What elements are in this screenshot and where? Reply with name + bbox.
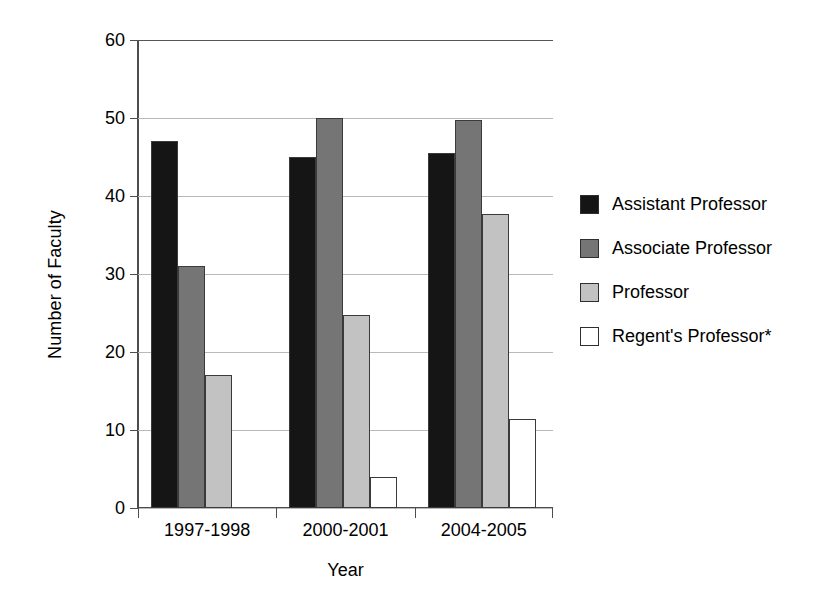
legend-swatch-icon: [580, 195, 599, 214]
chart-legend: Assistant ProfessorAssociate ProfessorPr…: [580, 182, 772, 358]
y-tick-label: 50: [105, 108, 125, 129]
y-tick-label: 20: [105, 342, 125, 363]
legend-swatch-icon: [580, 239, 599, 258]
x-tick-mark: [138, 508, 139, 518]
x-tick-mark: [276, 508, 277, 518]
bar: [343, 315, 370, 508]
legend-item: Professor: [580, 270, 772, 314]
y-tick-mark: [130, 274, 138, 275]
x-tick-mark: [552, 508, 553, 518]
legend-label: Regent's Professor*: [612, 326, 772, 347]
bar-group: [276, 40, 414, 508]
bar-chart: Number of Faculty 0102030405060 1997-199…: [0, 0, 815, 606]
y-tick-label: 30: [105, 264, 125, 285]
legend-swatch-icon: [580, 327, 599, 346]
legend-label: Assistant Professor: [612, 194, 767, 215]
legend-item: Regent's Professor*: [580, 314, 772, 358]
y-tick-mark: [130, 430, 138, 431]
legend-label: Professor: [612, 282, 689, 303]
legend-item: Associate Professor: [580, 226, 772, 270]
y-tick-mark: [130, 40, 138, 41]
x-axis-title: Year: [138, 560, 553, 581]
x-tick-mark: [415, 508, 416, 518]
y-tick-mark: [130, 352, 138, 353]
y-tick-mark: [130, 118, 138, 119]
bar: [428, 153, 455, 508]
bar: [289, 157, 316, 508]
bar-group: [415, 40, 553, 508]
y-tick-mark: [130, 196, 138, 197]
legend-item: Assistant Professor: [580, 182, 772, 226]
bar: [482, 214, 509, 508]
bar: [509, 419, 536, 508]
y-tick-mark: [130, 508, 138, 509]
legend-swatch-icon: [580, 283, 599, 302]
legend-label: Associate Professor: [612, 238, 772, 259]
bar: [205, 375, 232, 508]
bar: [455, 120, 482, 508]
plot-area: 0102030405060: [138, 40, 553, 508]
bar: [316, 118, 343, 508]
y-axis-title: Number of Faculty: [45, 185, 66, 385]
y-tick-label: 60: [105, 30, 125, 51]
x-tick-label: 2004-2005: [399, 520, 569, 541]
bar-group: [138, 40, 276, 508]
bar: [151, 141, 178, 508]
y-tick-label: 0: [115, 498, 125, 519]
y-tick-label: 40: [105, 186, 125, 207]
bar: [178, 266, 205, 508]
y-tick-label: 10: [105, 420, 125, 441]
gridline: [138, 508, 553, 509]
bar: [370, 477, 397, 508]
